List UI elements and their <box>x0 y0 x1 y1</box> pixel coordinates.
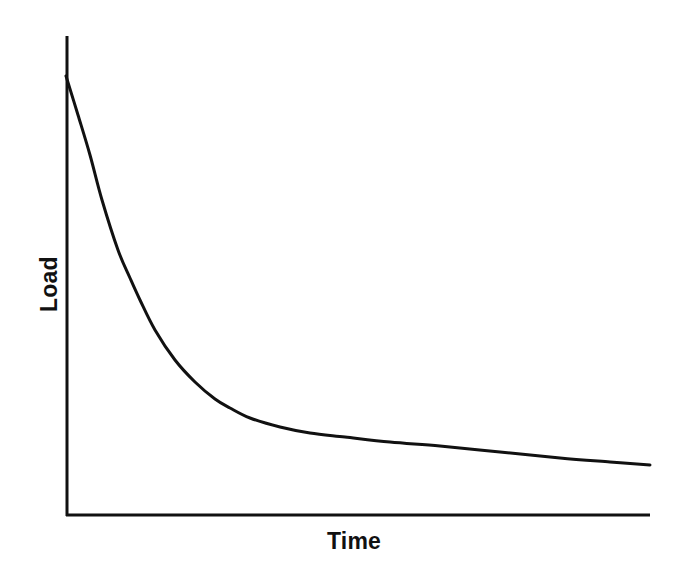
y-axis-title: Load <box>36 256 63 312</box>
plot-area <box>0 0 675 568</box>
x-axis-title: Time <box>327 528 381 555</box>
load-decay-curve <box>66 76 650 465</box>
chart-figure: Load Time <box>0 0 675 568</box>
